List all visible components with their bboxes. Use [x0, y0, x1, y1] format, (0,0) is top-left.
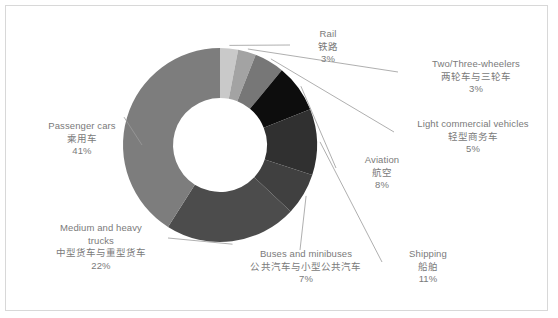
slice-label-buses-and-minibuses: Buses and minibuses 公共汽车与小型公共汽车 7%	[230, 248, 382, 286]
slice-label-aviation: Aviation 航空 8%	[340, 154, 424, 192]
leader-line-buses-and-minibuses	[300, 196, 306, 250]
slice-label-pct: 3%	[402, 83, 550, 96]
slice-label-en: Shipping	[386, 248, 470, 261]
slice-label-en: Two/Three-wheelers	[402, 58, 550, 71]
slice-label-cn: 航空	[340, 167, 424, 180]
slice-label-passenger-cars: Passenger cars 乘用车 41%	[22, 120, 142, 158]
slice-label-pct: 3%	[294, 53, 362, 66]
slice-label-en: Passenger cars	[22, 120, 142, 133]
slice-label-cn: 中型货车与重型货车	[30, 247, 172, 260]
slice-label-light-commercial-vehicles: Light commercial vehicles 轻型商务车 5%	[398, 118, 548, 156]
slice-label-cn: 乘用车	[22, 133, 142, 146]
slice-label-two-three-wheelers: Two/Three-wheelers 两轮车与三轮车 3%	[402, 58, 550, 96]
slice-label-pct: 22%	[30, 260, 172, 273]
slice-label-cn: 两轮车与三轮车	[402, 71, 550, 84]
slice-label-pct: 5%	[398, 143, 548, 156]
slice-label-cn: 公共汽车与小型公共汽车	[230, 261, 382, 274]
slice-label-medium-and-heavy-trucks: Medium and heavy trucks 中型货车与重型货车 22%	[30, 222, 172, 272]
slice-label-pct: 8%	[340, 179, 424, 192]
slice-label-cn: 船舶	[386, 261, 470, 274]
slice-label-en: Aviation	[340, 154, 424, 167]
slice-label-en: Light commercial vehicles	[398, 118, 548, 131]
slice-label-pct: 11%	[386, 273, 470, 286]
slice-label-en-line1: Medium and heavy	[30, 222, 172, 235]
slice-label-pct: 7%	[230, 273, 382, 286]
slice-label-pct: 41%	[22, 145, 142, 158]
slice-label-en: Buses and minibuses	[230, 248, 382, 261]
donut-slices	[123, 48, 317, 242]
slice-label-en: Rail	[294, 28, 362, 41]
slice-label-en-line2: trucks	[30, 235, 172, 248]
slice-label-shipping: Shipping 船舶 11%	[386, 248, 470, 286]
slice-label-cn: 轻型商务车	[398, 131, 548, 144]
slice-label-cn: 铁路	[294, 41, 362, 54]
slice-label-rail: Rail 铁路 3%	[294, 28, 362, 66]
